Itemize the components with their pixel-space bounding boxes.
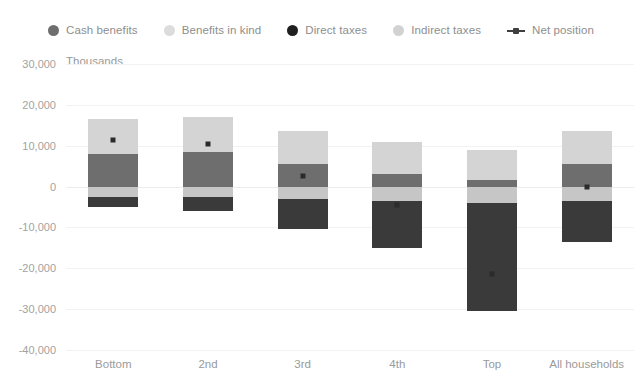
stacked-bar-chart: Cash benefits Benefits in kind Direct ta… <box>0 0 642 391</box>
line-marker-icon <box>507 25 525 36</box>
bar-group[interactable] <box>467 64 517 350</box>
bar-segment[interactable] <box>88 197 138 207</box>
net-position-marker[interactable] <box>206 141 211 146</box>
dot-icon <box>287 25 298 36</box>
y-axis-ticks: 30,00020,00010,0000-10,000-20,000-30,000… <box>0 64 60 350</box>
y-tick-label: -30,000 <box>19 303 56 315</box>
gridline <box>66 146 634 147</box>
bar-segment[interactable] <box>467 187 517 203</box>
bar-segment[interactable] <box>467 203 517 311</box>
bar-segment[interactable] <box>183 117 233 152</box>
bar-segment[interactable] <box>183 187 233 197</box>
net-position-marker[interactable] <box>490 272 495 277</box>
legend-label: Direct taxes <box>305 24 367 36</box>
net-position-marker[interactable] <box>395 202 400 207</box>
bar-segment[interactable] <box>562 201 612 242</box>
net-position-marker[interactable] <box>300 174 305 179</box>
plot-area <box>66 64 634 350</box>
bar-segment[interactable] <box>372 201 422 248</box>
legend-label: Benefits in kind <box>182 24 262 36</box>
bar-segment[interactable] <box>88 187 138 197</box>
x-tick-label: 4th <box>389 358 405 370</box>
gridline <box>66 268 634 269</box>
bar-segment[interactable] <box>183 197 233 211</box>
y-tick-label: -40,000 <box>19 344 56 356</box>
y-tick-label: 0 <box>50 181 56 193</box>
legend-label: Indirect taxes <box>411 24 481 36</box>
bar-group[interactable] <box>278 64 328 350</box>
bar-segment[interactable] <box>372 142 422 175</box>
gridline <box>66 64 634 65</box>
bar-segment[interactable] <box>88 154 138 187</box>
dot-icon <box>48 25 59 36</box>
bar-segment[interactable] <box>183 152 233 187</box>
bar-segment[interactable] <box>562 131 612 164</box>
gridline <box>66 105 634 106</box>
x-axis-labels: Bottom2nd3rd4thTopAll households <box>66 352 634 376</box>
chart-legend: Cash benefits Benefits in kind Direct ta… <box>0 18 642 42</box>
bar-group[interactable] <box>88 64 138 350</box>
bar-segment[interactable] <box>278 199 328 230</box>
zero-gridline <box>66 187 634 188</box>
dot-icon <box>393 25 404 36</box>
net-position-marker[interactable] <box>584 184 589 189</box>
legend-label: Cash benefits <box>66 24 138 36</box>
gridline <box>66 350 634 351</box>
bar-segment[interactable] <box>278 187 328 199</box>
y-tick-label: -20,000 <box>19 262 56 274</box>
bar-group[interactable] <box>183 64 233 350</box>
legend-label: Net position <box>532 24 594 36</box>
legend-item-benefits-in-kind[interactable]: Benefits in kind <box>164 24 262 36</box>
bar-group[interactable] <box>562 64 612 350</box>
y-tick-label: 10,000 <box>22 140 56 152</box>
x-tick-label: 3rd <box>294 358 311 370</box>
y-tick-label: -10,000 <box>19 221 56 233</box>
net-position-marker[interactable] <box>111 137 116 142</box>
gridline <box>66 227 634 228</box>
legend-item-net-position[interactable]: Net position <box>507 24 594 36</box>
x-tick-label: Top <box>483 358 502 370</box>
x-tick-label: All households <box>549 358 624 370</box>
legend-item-cash-benefits[interactable]: Cash benefits <box>48 24 138 36</box>
bar-segment[interactable] <box>278 131 328 164</box>
gridline <box>66 309 634 310</box>
legend-item-indirect-taxes[interactable]: Indirect taxes <box>393 24 481 36</box>
dot-icon <box>164 25 175 36</box>
bar-segment[interactable] <box>372 187 422 201</box>
x-tick-label: Bottom <box>95 358 131 370</box>
y-tick-label: 20,000 <box>22 99 56 111</box>
bar-segment[interactable] <box>467 150 517 181</box>
legend-item-direct-taxes[interactable]: Direct taxes <box>287 24 367 36</box>
x-tick-label: 2nd <box>198 358 217 370</box>
bar-segment[interactable] <box>372 174 422 186</box>
y-tick-label: 30,000 <box>22 58 56 70</box>
